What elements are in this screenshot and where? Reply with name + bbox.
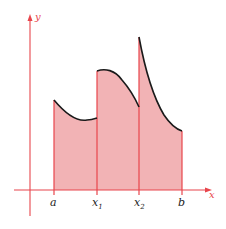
tick-label-a: a xyxy=(50,196,57,209)
y-axis-label: y xyxy=(34,11,41,22)
y-axis-arrow-icon xyxy=(28,14,33,21)
tick-label-b: b xyxy=(178,196,185,209)
tick-label-x1: x1 xyxy=(92,196,103,211)
shaded-region-a-x1 xyxy=(54,100,97,190)
piecewise-area-diagram: x y a x1 x2 b xyxy=(0,0,226,229)
tick-label-x2: x2 xyxy=(134,196,145,211)
shaded-region-x2-b xyxy=(139,37,182,190)
shaded-region-x1-x2 xyxy=(97,70,139,190)
x-axis-label: x xyxy=(209,189,215,200)
